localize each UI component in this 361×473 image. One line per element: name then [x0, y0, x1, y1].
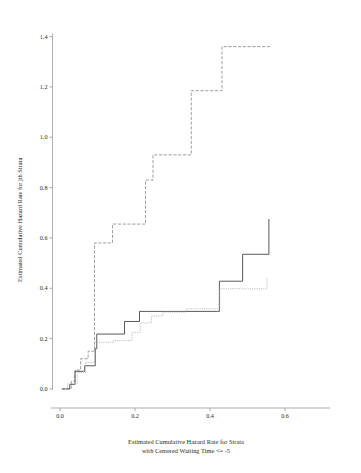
data-curves-group	[62, 47, 270, 389]
upper-dash-dot-curve	[62, 47, 270, 389]
y-axis-group: 0.00.20.40.60.81.01.21.4	[40, 33, 53, 392]
x-axis-title-line2: with Centered Waiting Time <= -5	[142, 447, 230, 454]
y-tick-label: 1.2	[40, 83, 48, 90]
x-axis-ticks: 0.00.20.40.6	[56, 408, 289, 419]
y-tick-label: 0.6	[40, 234, 48, 241]
x-tick-label: 0.0	[56, 412, 64, 419]
x-axis-group: 0.00.20.40.6	[51, 408, 330, 419]
y-axis-title: Estimated Cumulative Hazard Rate for jth…	[16, 158, 23, 282]
lower-dotted-curve	[62, 278, 267, 389]
y-tick-label: 1.0	[40, 133, 48, 140]
y-tick-label: 0.0	[40, 385, 48, 392]
middle-solid-curve	[62, 219, 269, 389]
y-tick-label: 0.2	[40, 335, 48, 342]
x-tick-label: 0.4	[206, 412, 214, 419]
y-tick-label: 0.4	[40, 284, 48, 291]
x-axis-title-line1: Estimated Cumulative Hazard Rate for Str…	[128, 438, 244, 445]
x-tick-label: 0.6	[281, 412, 289, 419]
cumulative-hazard-step-plot: 0.00.20.40.60.81.01.21.4 0.00.20.40.6 Es…	[0, 0, 361, 473]
y-tick-label: 0.8	[40, 184, 48, 191]
y-tick-label: 1.4	[40, 33, 48, 40]
y-axis-ticks: 0.00.20.40.60.81.01.21.4	[40, 33, 53, 392]
figure-container: 0.00.20.40.60.81.01.21.4 0.00.20.40.6 Es…	[0, 0, 361, 473]
x-tick-label: 0.2	[131, 412, 139, 419]
